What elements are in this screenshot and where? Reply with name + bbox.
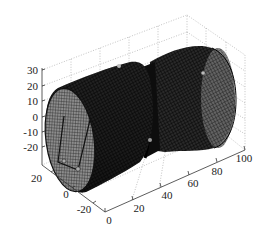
- y-tick-label: 20: [31, 172, 43, 184]
- x-tick-label: 80: [212, 165, 224, 177]
- mesh-highlight: [201, 71, 205, 75]
- z-tick-label: 30: [27, 64, 39, 76]
- mesh-highlight: [117, 64, 121, 68]
- z-tick-label: 0: [33, 111, 39, 123]
- y-tick-label: 0: [63, 188, 69, 200]
- plot-canvas: 30 20 10 0 -10 -20 20 0 -20 0 20 40 60 8…: [0, 0, 267, 230]
- z-tick-label: -10: [23, 126, 38, 138]
- z-tick-label: -20: [23, 141, 38, 153]
- x-tick-label: 40: [162, 189, 174, 201]
- x-tick-label: 100: [236, 152, 253, 164]
- z-tick-label: 20: [27, 80, 39, 92]
- mesh-large-cylinder: [39, 62, 153, 195]
- x-tick-label: 60: [188, 177, 200, 189]
- mesh-plot-figure: 30 20 10 0 -10 -20 20 0 -20 0 20 40 60 8…: [0, 0, 267, 230]
- y-tick-label: -20: [77, 203, 92, 215]
- z-tick-label: 10: [27, 95, 39, 107]
- z-axis: 30 20 10 0 -10 -20: [23, 64, 45, 165]
- mesh-highlight: [148, 138, 152, 142]
- x-tick-label: 20: [134, 202, 146, 214]
- x-tick-label: 0: [106, 214, 112, 226]
- mesh-small-cylinder: [150, 46, 236, 152]
